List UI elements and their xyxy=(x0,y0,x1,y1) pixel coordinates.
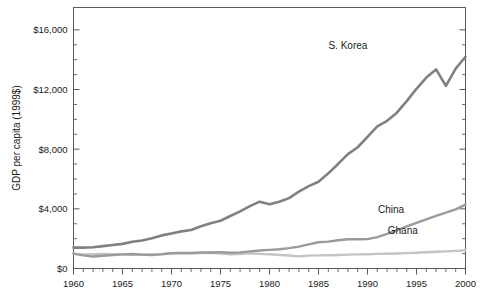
y-axis-tick-labels: $0$4,000$8,000$12,000$16,000 xyxy=(33,24,67,274)
x-tick-label: 1995 xyxy=(406,278,427,289)
series-label-s-korea: S. Korea xyxy=(328,40,367,51)
y-tick-label: $16,000 xyxy=(33,24,67,35)
series-label-china: China xyxy=(378,204,405,215)
x-tick-label: 1985 xyxy=(308,278,329,289)
y-axis-title: GDP per capita (1999$) xyxy=(11,85,22,190)
x-tick-label: 2000 xyxy=(455,278,476,289)
y-tick-label: $12,000 xyxy=(33,84,67,95)
chart-canvas: $0$4,000$8,000$12,000$16,000 19601965197… xyxy=(0,0,482,302)
x-tick-label: 1960 xyxy=(63,278,84,289)
y-tick-label: $0 xyxy=(57,263,68,274)
axis-ticks xyxy=(74,30,466,275)
series-label-ghana: Ghana xyxy=(388,225,418,236)
y-axis-title-text: GDP per capita (1999$) xyxy=(11,85,22,190)
x-axis-tick-labels: 196019651970197519801985199019952000 xyxy=(63,278,476,289)
x-tick-label: 1990 xyxy=(357,278,378,289)
x-tick-label: 1965 xyxy=(112,278,133,289)
series-line-s-korea xyxy=(74,57,466,248)
y-tick-label: $4,000 xyxy=(38,203,67,214)
series-inline-labels: S. KoreaChinaGhana xyxy=(328,40,418,237)
x-tick-label: 1970 xyxy=(161,278,182,289)
x-tick-label: 1975 xyxy=(210,278,231,289)
y-tick-label: $8,000 xyxy=(38,144,67,155)
gdp-per-capita-line-chart: $0$4,000$8,000$12,000$16,000 19601965197… xyxy=(0,0,482,302)
x-tick-label: 1980 xyxy=(259,278,280,289)
